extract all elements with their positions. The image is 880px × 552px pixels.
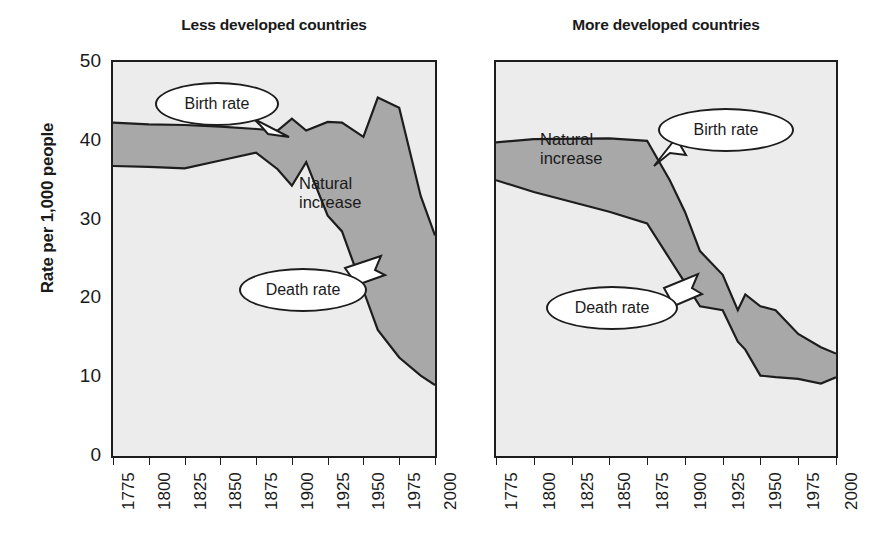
x-tick-label: 1800: [541, 472, 558, 510]
right-chart-svg: [496, 62, 836, 456]
y-axis-label: Rate per 1,000 people: [38, 98, 58, 318]
x-tick-mark: [220, 458, 221, 465]
right-plot-area: Natural increase Birth rate Death rate: [494, 60, 838, 458]
x-tick-mark: [185, 458, 186, 465]
x-tick-mark: [363, 458, 364, 465]
x-tick-mark: [496, 458, 497, 465]
x-tick-mark: [399, 458, 400, 465]
y-tick-label: 40: [57, 129, 101, 148]
x-tick-mark: [798, 458, 799, 465]
right-area-label-line1: Natural: [540, 130, 602, 149]
x-tick-mark: [760, 458, 761, 465]
figure-root: Rate per 1,000 people 50403020100 Less d…: [0, 0, 880, 552]
x-tick-mark: [836, 458, 837, 465]
x-tick-mark: [256, 458, 257, 465]
left-area-label: Natural increase: [299, 174, 361, 212]
left-panel-title: Less developed countries: [111, 16, 437, 34]
x-tick-label: 1900: [692, 472, 709, 510]
left-area-label-line1: Natural: [299, 174, 361, 193]
x-tick-label: 1850: [616, 472, 633, 510]
left-plot-area: Natural increase Birth rate Death rate: [111, 60, 437, 458]
left-chart-svg: [113, 62, 435, 456]
x-tick-label: 1950: [370, 472, 387, 510]
x-tick-mark: [647, 458, 648, 465]
x-tick-label: 1825: [192, 472, 209, 510]
x-tick-mark: [572, 458, 573, 465]
x-tick-label: 1775: [120, 472, 137, 510]
x-tick-label: 1875: [654, 472, 671, 510]
left-area-label-line2: increase: [299, 193, 361, 212]
y-tick-label: 0: [57, 445, 101, 464]
y-tick-label: 50: [57, 51, 101, 70]
right-panel-title: More developed countries: [494, 16, 838, 34]
panel-less-developed: Less developed countries Natural increas…: [111, 16, 437, 458]
x-tick-label: 1975: [406, 472, 423, 510]
x-tick-label: 1975: [805, 472, 822, 510]
x-tick-label: 1900: [299, 472, 316, 510]
x-tick-label: 1825: [579, 472, 596, 510]
x-tick-label: 1850: [227, 472, 244, 510]
x-tick-label: 1925: [335, 472, 352, 510]
y-tick-label: 30: [57, 208, 101, 227]
x-tick-mark: [609, 458, 610, 465]
x-tick-label: 2000: [442, 472, 459, 510]
x-tick-label: 1775: [503, 472, 520, 510]
x-tick-label: 1800: [156, 472, 173, 510]
y-tick-label: 10: [57, 366, 101, 385]
x-tick-mark: [292, 458, 293, 465]
right-area-label-line2: increase: [540, 149, 602, 168]
x-tick-label: 1925: [730, 472, 747, 510]
x-tick-mark: [685, 458, 686, 465]
x-tick-mark: [723, 458, 724, 465]
panel-more-developed: More developed countries Natural increas…: [494, 16, 838, 458]
x-tick-mark: [328, 458, 329, 465]
y-tick-label: 20: [57, 287, 101, 306]
x-tick-mark: [149, 458, 150, 465]
x-tick-label: 2000: [843, 472, 860, 510]
x-tick-label: 1950: [767, 472, 784, 510]
x-tick-mark: [113, 458, 114, 465]
x-tick-mark: [435, 458, 436, 465]
x-tick-label: 1875: [263, 472, 280, 510]
right-area-label: Natural increase: [540, 130, 602, 168]
x-tick-mark: [534, 458, 535, 465]
